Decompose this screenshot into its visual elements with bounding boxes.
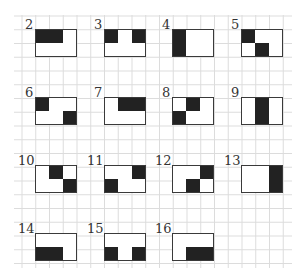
filled-cell	[49, 166, 62, 179]
filled-cell	[63, 179, 76, 192]
filled-cell	[173, 43, 186, 56]
filled-cell	[105, 247, 118, 260]
empty-cell	[200, 98, 213, 111]
empty-cell	[49, 98, 62, 111]
filled-cell	[132, 30, 145, 43]
empty-cell	[132, 111, 145, 124]
pattern-box	[241, 97, 283, 125]
pattern-box	[172, 29, 214, 57]
filled-cell	[186, 247, 199, 260]
empty-cell	[36, 166, 49, 179]
pattern-diagram: 2345678910111213141516	[0, 0, 300, 280]
empty-cell	[200, 30, 213, 43]
pattern-number-label: 14	[18, 222, 35, 235]
empty-cell	[132, 43, 145, 56]
pattern-box	[35, 233, 77, 261]
empty-cell	[105, 234, 118, 247]
empty-cell	[49, 179, 62, 192]
pattern-box	[104, 165, 146, 193]
empty-cell	[63, 43, 76, 56]
pattern-number-label: 12	[155, 154, 172, 167]
pattern-box	[172, 233, 214, 261]
empty-cell	[105, 98, 118, 111]
empty-cell	[242, 43, 255, 56]
empty-cell	[63, 98, 76, 111]
empty-cell	[242, 166, 255, 179]
empty-cell	[200, 179, 213, 192]
empty-cell	[118, 179, 131, 192]
empty-cell	[105, 166, 118, 179]
filled-cell	[255, 43, 268, 56]
pattern-box	[241, 165, 283, 193]
filled-cell	[269, 179, 282, 192]
empty-cell	[36, 111, 49, 124]
empty-cell	[255, 166, 268, 179]
empty-cell	[105, 111, 118, 124]
empty-cell	[173, 98, 186, 111]
empty-cell	[63, 234, 76, 247]
empty-cell	[63, 30, 76, 43]
empty-cell	[49, 234, 62, 247]
filled-cell	[255, 111, 268, 124]
filled-cell	[132, 247, 145, 260]
empty-cell	[36, 179, 49, 192]
empty-cell	[186, 43, 199, 56]
filled-cell	[49, 30, 62, 43]
empty-cell	[105, 43, 118, 56]
empty-cell	[49, 43, 62, 56]
filled-cell	[49, 247, 62, 260]
pattern-number-label: 11	[87, 154, 104, 167]
pattern-number-label: 2	[25, 18, 33, 31]
pattern-number-label: 10	[18, 154, 35, 167]
pattern-number-label: 6	[25, 86, 33, 99]
empty-cell	[255, 30, 268, 43]
empty-cell	[186, 111, 199, 124]
filled-cell	[105, 30, 118, 43]
empty-cell	[63, 166, 76, 179]
empty-cell	[173, 247, 186, 260]
empty-cell	[186, 30, 199, 43]
empty-cell	[242, 111, 255, 124]
empty-cell	[173, 234, 186, 247]
empty-cell	[269, 98, 282, 111]
empty-cell	[269, 43, 282, 56]
pattern-number-label: 9	[231, 86, 239, 99]
empty-cell	[36, 234, 49, 247]
filled-cell	[173, 30, 186, 43]
empty-cell	[173, 166, 186, 179]
empty-cell	[186, 234, 199, 247]
pattern-box	[35, 165, 77, 193]
pattern-box	[104, 29, 146, 57]
filled-cell	[242, 30, 255, 43]
empty-cell	[242, 98, 255, 111]
filled-cell	[105, 179, 118, 192]
pattern-box	[241, 29, 283, 57]
empty-cell	[118, 30, 131, 43]
empty-cell	[118, 247, 131, 260]
empty-cell	[118, 166, 131, 179]
filled-cell	[200, 166, 213, 179]
filled-cell	[255, 98, 268, 111]
empty-cell	[242, 179, 255, 192]
empty-cell	[118, 111, 131, 124]
pattern-box	[104, 97, 146, 125]
filled-cell	[186, 98, 199, 111]
pattern-box	[172, 97, 214, 125]
filled-cell	[36, 247, 49, 260]
empty-cell	[200, 43, 213, 56]
filled-cell	[186, 179, 199, 192]
filled-cell	[36, 30, 49, 43]
pattern-number-label: 4	[162, 18, 170, 31]
pattern-number-label: 3	[94, 18, 102, 31]
pattern-box	[172, 165, 214, 193]
empty-cell	[269, 111, 282, 124]
pattern-box	[104, 233, 146, 261]
pattern-box	[35, 97, 77, 125]
empty-cell	[200, 234, 213, 247]
pattern-number-label: 15	[87, 222, 104, 235]
pattern-number-label: 13	[224, 154, 241, 167]
filled-cell	[269, 166, 282, 179]
filled-cell	[200, 247, 213, 260]
empty-cell	[49, 111, 62, 124]
empty-cell	[132, 179, 145, 192]
